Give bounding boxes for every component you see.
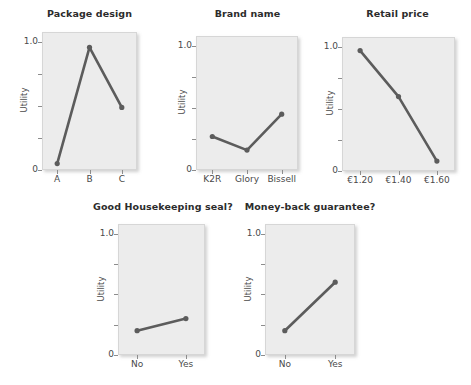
conjoint-utility-figure: Package designUtility01.0ABCBrand nameUt…: [0, 0, 471, 385]
data-series-4: [0, 0, 471, 385]
data-point-4-0: [282, 328, 287, 333]
chart-panel-4: Money-back guarantee?Utility01.0NoYes: [0, 0, 471, 385]
series-line-4: [285, 282, 335, 331]
data-point-4-1: [333, 280, 338, 285]
